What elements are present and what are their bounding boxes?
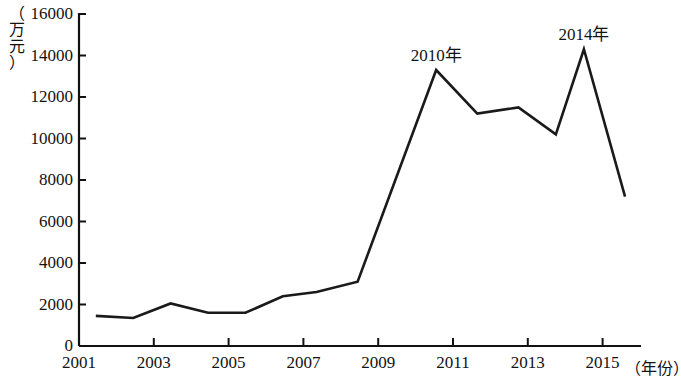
x-axis-tick-label: 2001: [39, 354, 119, 371]
y-axis-tick-label: 16000: [0, 5, 73, 22]
x-axis-ticks: [154, 338, 603, 346]
y-axis-tick-label: 0: [0, 337, 73, 354]
x-axis-tick-label: 2009: [338, 354, 418, 371]
x-axis-tick-label: 2005: [189, 354, 269, 371]
peak-annotation: 2010年: [376, 41, 496, 66]
peak-annotation: 2014年: [524, 20, 644, 45]
y-axis-title-char-1: 万: [4, 22, 30, 38]
y-axis-tick-label: 2000: [0, 296, 73, 313]
data-series-line: [96, 49, 625, 318]
axis-lines: [79, 13, 641, 346]
y-axis-tick-label: 14000: [0, 47, 73, 64]
y-axis-tick-label: 4000: [0, 254, 73, 271]
x-axis-tick-label: 2011: [413, 354, 493, 371]
x-axis-tick-label: 2007: [263, 354, 343, 371]
y-axis-tick-label: 12000: [0, 88, 73, 105]
y-axis-tick-label: 6000: [0, 213, 73, 230]
y-axis-tick-label: 8000: [0, 171, 73, 188]
x-axis-tick-label: 2015: [563, 354, 643, 371]
x-axis-tick-label: 2013: [488, 354, 568, 371]
y-axis-tick-label: 10000: [0, 130, 73, 147]
x-axis-tick-label: 2003: [114, 354, 194, 371]
